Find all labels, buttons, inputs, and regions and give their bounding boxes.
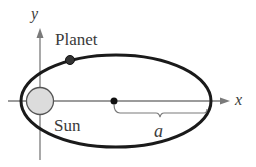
ellipse-center-point [111,98,118,105]
y-axis-label: y [31,6,38,22]
orbit-diagram: y Planet Sun a x [0,0,256,167]
x-axis-label: x [235,92,242,108]
planet [66,56,75,65]
x-axis-arrow-icon [220,98,230,105]
semi-major-axis-brace [114,104,207,117]
sun-label: Sun [54,117,80,134]
sun [27,88,54,115]
orbit-graphic [0,0,256,167]
planet-label: Planet [55,31,98,48]
semi-major-axis-label: a [154,122,163,140]
y-axis-arrow-icon [37,28,44,38]
